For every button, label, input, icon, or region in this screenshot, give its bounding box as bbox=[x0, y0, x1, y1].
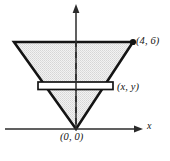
label-x-axis-name: x bbox=[147, 121, 152, 131]
label-origin-vertex: (0, 0) bbox=[60, 132, 83, 143]
label-slice-point: (x, y) bbox=[117, 82, 139, 93]
x-axis-arrowhead-icon bbox=[134, 126, 143, 133]
figure-canvas bbox=[0, 0, 170, 161]
y-axis-arrowhead-icon bbox=[73, 4, 80, 13]
label-top-right-vertex: (4, 6) bbox=[136, 36, 159, 47]
geometry-figure: (4, 6) (x, y) (0, 0) x bbox=[0, 0, 170, 161]
